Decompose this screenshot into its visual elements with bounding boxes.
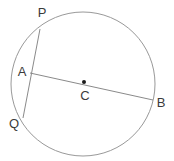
- label-point-p: P: [38, 5, 47, 20]
- geometry-figure: P A C B Q: [0, 0, 174, 161]
- label-point-a: A: [18, 64, 27, 79]
- chord-ab: [30, 73, 153, 100]
- center-point-dot: [82, 80, 86, 84]
- circle-outline: [11, 12, 155, 156]
- geometry-canvas: P A C B Q: [0, 0, 174, 161]
- label-point-q: Q: [9, 116, 19, 131]
- label-point-b: B: [157, 95, 166, 110]
- label-point-c: C: [80, 88, 89, 103]
